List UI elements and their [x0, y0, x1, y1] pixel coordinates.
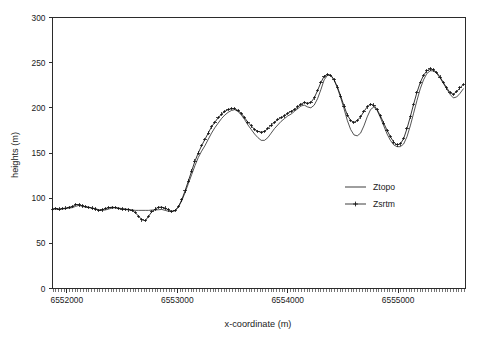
x-tick-label: 6554000: [271, 295, 304, 305]
y-tick-label: 50: [36, 238, 46, 248]
chart-container: 050100150200250300 655200065530006554000…: [0, 0, 483, 337]
legend-label: Ztopo: [373, 182, 395, 192]
y-axis-title: heights (m): [10, 132, 20, 178]
y-tick-label: 100: [32, 193, 46, 203]
y-tick-label: 200: [32, 103, 46, 113]
x-tick-label: 6555000: [382, 295, 415, 305]
chart-background: [0, 0, 483, 337]
x-tick-label: 6552000: [51, 295, 84, 305]
x-tick-label: 6553000: [161, 295, 194, 305]
y-tick-label: 300: [32, 13, 46, 23]
y-tick-label: 250: [32, 58, 46, 68]
y-tick-label: 150: [32, 148, 46, 158]
legend-label: Zsrtm: [373, 199, 395, 209]
line-chart: 050100150200250300 655200065530006554000…: [0, 0, 483, 337]
y-tick-label: 0: [41, 284, 46, 294]
x-axis-title: x-coordinate (m): [225, 319, 292, 329]
